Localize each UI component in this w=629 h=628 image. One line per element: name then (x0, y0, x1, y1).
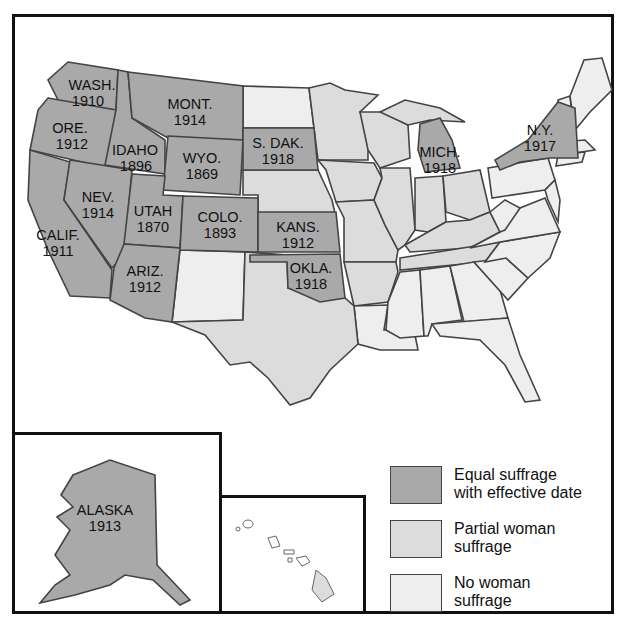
label-mich-name: MICH. (419, 144, 460, 160)
label-okla-name: OKLA. (290, 260, 333, 276)
label-mont-year: 1914 (174, 112, 206, 128)
label-mont-name: MONT. (167, 96, 212, 112)
legend-equal-line2: with effective date (454, 484, 624, 502)
label-nev-year: 1914 (82, 205, 114, 221)
label-sdak-name: S. DAK. (252, 135, 304, 151)
label-colo-name: COLO. (197, 209, 242, 225)
label-mich-year: 1918 (424, 160, 456, 176)
label-ny-name: N.Y. (527, 122, 553, 138)
legend-swatch-none (390, 574, 442, 612)
label-idaho-year: 1896 (120, 158, 152, 174)
legend-item-equal: Equal suffrage with effective date (390, 466, 624, 506)
label-ny-year: 1917 (524, 138, 556, 154)
label-kans-name: KANS. (276, 219, 320, 235)
label-alaska-name: ALASKA (77, 502, 134, 518)
legend-partial-line1: Partial woman (454, 520, 624, 538)
legend-swatch-equal (390, 466, 442, 504)
map-legend: Equal suffrage with effective date Parti… (390, 466, 624, 628)
hawaii-map (222, 498, 363, 611)
alaska-map: ALASKA 1913 (15, 435, 219, 611)
label-sdak-year: 1918 (262, 151, 294, 167)
legend-swatch-partial (390, 520, 442, 558)
state-ohio (443, 170, 490, 220)
label-kans-year: 1912 (282, 235, 314, 251)
state-north-dakota (243, 86, 314, 128)
label-ore-year: 1912 (56, 136, 88, 152)
label-utah-name: UTAH (134, 203, 172, 219)
us-map: WASH. 1910 ORE. 1912 IDAHO 1896 MONT. 19… (0, 0, 629, 440)
state-florida (432, 318, 540, 402)
label-wyo-name: WYO. (183, 150, 222, 166)
legend-equal-line1: Equal suffrage (454, 466, 624, 484)
label-alaska-year: 1913 (89, 518, 121, 534)
label-ariz-year: 1912 (129, 279, 161, 295)
label-wyo-year: 1869 (186, 166, 218, 182)
hawaii-islands (236, 520, 310, 566)
label-okla-year: 1918 (295, 276, 327, 292)
state-new-mexico (172, 250, 245, 322)
label-ore-name: ORE. (52, 120, 87, 136)
label-wash-name: WASH. (69, 77, 116, 93)
label-idaho-name: IDAHO (112, 142, 158, 158)
label-wash-year: 1910 (72, 93, 104, 109)
label-utah-year: 1870 (137, 219, 169, 235)
legend-item-partial: Partial woman suffrage (390, 520, 624, 560)
label-calif-year: 1911 (42, 243, 73, 259)
legend-none-line2: suffrage (454, 592, 624, 610)
alaska-inset: ALASKA 1913 (12, 432, 222, 614)
label-ariz-name: ARIZ. (126, 263, 163, 279)
state-indiana (415, 176, 446, 232)
legend-item-none: No woman suffrage (390, 574, 624, 614)
label-calif-name: CALIF. (36, 227, 80, 243)
legend-none-line1: No woman (454, 574, 624, 592)
hawaii-big-island (312, 570, 334, 602)
label-colo-year: 1893 (204, 225, 236, 241)
label-nev-name: NEV. (82, 189, 115, 205)
legend-partial-line2: suffrage (454, 538, 624, 556)
hawaii-inset (219, 495, 366, 614)
